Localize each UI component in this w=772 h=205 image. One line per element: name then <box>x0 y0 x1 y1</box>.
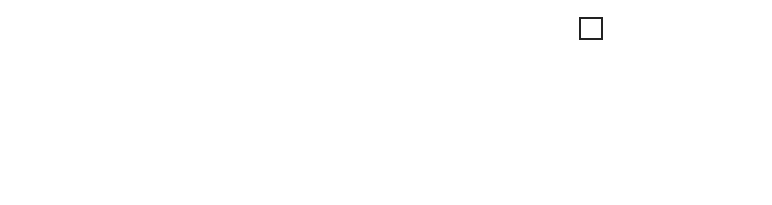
music-staff <box>0 0 772 205</box>
chord-symbol-box <box>579 17 603 40</box>
